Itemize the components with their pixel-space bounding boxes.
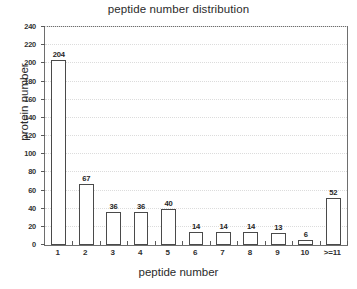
gridline xyxy=(45,153,347,154)
gridline xyxy=(45,117,347,118)
bar-value-label: 40 xyxy=(149,199,189,208)
y-tick-label: 180 xyxy=(0,77,36,86)
bar xyxy=(189,232,204,245)
gridline xyxy=(45,44,347,45)
gridline xyxy=(45,99,347,100)
bar-value-label: 67 xyxy=(66,174,106,183)
x-tick-mark-minor xyxy=(100,241,101,245)
bar xyxy=(298,240,313,245)
y-tick-mark xyxy=(41,26,45,27)
y-tick-label: 60 xyxy=(0,186,36,195)
bar-value-label: 6 xyxy=(286,230,326,239)
y-tick-mark xyxy=(41,244,45,245)
x-tick-mark-minor xyxy=(237,241,238,245)
y-tick-mark xyxy=(41,117,45,118)
y-tick-mark xyxy=(41,62,45,63)
gridline xyxy=(45,135,347,136)
x-tick-mark-minor xyxy=(320,241,321,245)
bar xyxy=(326,198,341,245)
y-tick-label: 40 xyxy=(0,204,36,213)
bar xyxy=(216,232,231,245)
bar-value-label: 52 xyxy=(313,188,353,197)
y-tick-mark xyxy=(41,208,45,209)
x-tick-mark-minor xyxy=(210,241,211,245)
y-tick-label: 220 xyxy=(0,40,36,49)
x-tick-mark-minor xyxy=(265,241,266,245)
y-tick-mark xyxy=(41,44,45,45)
gridline xyxy=(45,62,347,63)
x-tick-label: >=11 xyxy=(312,248,352,257)
bar xyxy=(134,212,149,245)
x-tick-mark-minor xyxy=(347,241,348,245)
x-axis-label: peptide number xyxy=(0,266,357,278)
y-tick-label: 0 xyxy=(0,240,36,249)
bar xyxy=(79,184,94,245)
x-tick-mark-minor xyxy=(292,241,293,245)
y-tick-label: 140 xyxy=(0,113,36,122)
y-tick-mark xyxy=(41,171,45,172)
y-tick-label: 160 xyxy=(0,95,36,104)
gridline xyxy=(45,81,347,82)
chart-title: peptide number distribution xyxy=(0,3,357,15)
x-tick-mark-minor xyxy=(72,241,73,245)
x-tick-mark-minor xyxy=(182,241,183,245)
y-tick-mark xyxy=(41,153,45,154)
y-tick-mark xyxy=(41,99,45,100)
x-tick-mark-minor xyxy=(155,241,156,245)
gridline xyxy=(45,171,347,172)
bar xyxy=(106,212,121,245)
x-tick-mark-minor xyxy=(127,241,128,245)
bar xyxy=(243,232,258,245)
y-tick-label: 80 xyxy=(0,167,36,176)
bar xyxy=(161,209,176,245)
bar xyxy=(51,60,66,245)
bar-value-label: 204 xyxy=(39,50,79,59)
y-tick-label: 20 xyxy=(0,222,36,231)
y-tick-mark xyxy=(41,226,45,227)
y-tick-mark xyxy=(41,135,45,136)
gridline xyxy=(45,26,347,27)
y-tick-label: 240 xyxy=(0,22,36,31)
bar xyxy=(271,233,286,245)
chart-figure: peptide number distribution protein numb… xyxy=(0,0,357,289)
y-tick-mark xyxy=(41,190,45,191)
y-tick-label: 200 xyxy=(0,58,36,67)
y-tick-mark xyxy=(41,81,45,82)
y-tick-label: 100 xyxy=(0,149,36,158)
plot-area: 020406080100120140160180200220240 204673… xyxy=(44,26,348,246)
y-tick-label: 120 xyxy=(0,131,36,140)
